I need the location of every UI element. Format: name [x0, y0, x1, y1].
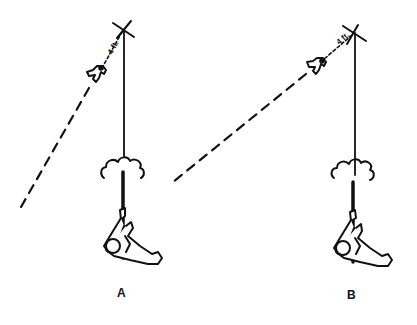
bird-icon [307, 58, 326, 74]
climber-figure [334, 210, 392, 266]
panel-a [21, 21, 162, 264]
trajectory-line [173, 74, 306, 182]
diagram-canvas: 4 ft. 4 ft. [0, 0, 417, 325]
panel-b [173, 25, 392, 266]
distance-label-a: 4 ft. [106, 39, 121, 56]
distance-label-b: 4 ft. [335, 30, 352, 46]
panel-label-b: B [347, 288, 356, 302]
cloud-icon [332, 159, 374, 180]
bird-icon [87, 66, 106, 82]
trajectory-line [21, 88, 89, 207]
climber-figure [104, 208, 162, 264]
panel-label-a: A [117, 286, 126, 300]
